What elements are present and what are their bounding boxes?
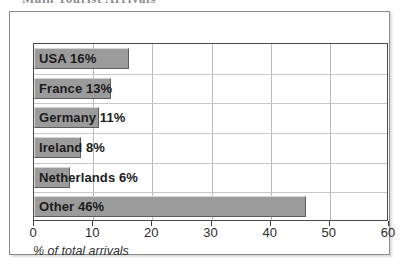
bar-row: Netherlands 6% [34,163,389,193]
bar-row: Other 46% [34,192,389,222]
x-tick-label-50: 50 [322,225,336,240]
x-tick-label-0: 0 [29,225,36,240]
bar-label-france: France 13% [39,77,112,100]
chart-plot-area: USA 16%France 13%Germany 11%Ireland 8%Ne… [33,43,388,221]
bar-label-other: Other 46% [39,195,104,218]
figure-frame: USA 16%France 13%Germany 11%Ireland 8%Ne… [9,11,390,255]
bar-row: Germany 11% [34,103,389,133]
x-tick-label-40: 40 [262,225,276,240]
bar-label-usa: USA 16% [39,47,96,70]
bar-label-germany: Germany 11% [39,106,125,129]
clipped-heading: Main Tourist Arrivals [0,0,403,9]
x-tick-label-30: 30 [203,225,217,240]
x-tick-label-20: 20 [144,225,158,240]
bar-row: Ireland 8% [34,133,389,163]
bar-label-netherlands: Netherlands 6% [39,166,138,189]
bar-row: USA 16% [34,44,389,74]
x-tick-label-10: 10 [85,225,99,240]
clipped-heading-text: Main Tourist Arrivals [22,0,156,7]
x-tick-label-60: 60 [381,225,395,240]
x-axis-tick-labels: 0102030405060 [33,225,388,243]
bar-label-ireland: Ireland 8% [39,136,105,159]
x-axis-caption: % of total arrivals [33,244,129,258]
bar-row: France 13% [34,74,389,104]
